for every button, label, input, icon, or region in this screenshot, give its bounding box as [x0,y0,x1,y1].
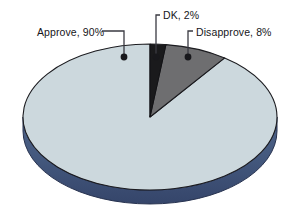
marker-dot-disapprove [185,54,192,61]
slice-label-dk: DK, 2% [163,9,199,21]
slice-label-approve: Approve, 90% [37,26,104,38]
slice-label-disapprove: Disapprove, 8% [196,26,272,38]
marker-dot-dk [153,54,160,61]
marker-dot-approve [121,54,128,61]
pie-chart-figure: Approve, 90% DK, 2% Disapprove, 8% [0,0,294,215]
